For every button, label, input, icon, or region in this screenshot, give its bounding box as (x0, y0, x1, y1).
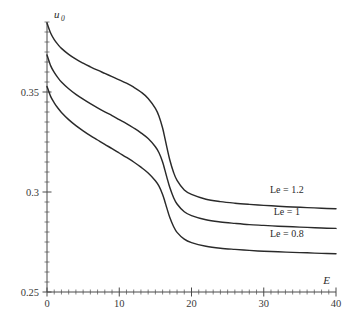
y-axis-label-subscript: 0 (61, 14, 65, 23)
series-label: Le = 1 (274, 206, 300, 217)
x-axis-label: E (322, 274, 330, 286)
x-axis-tick-labels: 010203040 (44, 298, 341, 309)
y-axis-label: u (54, 8, 60, 20)
curve-le-1 (47, 55, 336, 228)
x-tick-label: 40 (331, 298, 342, 309)
series-label: Le = 0.8 (270, 228, 304, 239)
data-curves (47, 23, 336, 254)
plot-area: 0.250.30.35 010203040 Le = 1.2Le = 1Le =… (0, 0, 346, 330)
series-label: Le = 1.2 (270, 184, 304, 195)
x-tick-label: 0 (44, 298, 49, 309)
y-axis-tick-labels: 0.250.30.35 (21, 87, 39, 298)
x-tick-label: 20 (186, 298, 197, 309)
x-tick-label: 30 (259, 298, 270, 309)
series-labels: Le = 1.2Le = 1Le = 0.8 (270, 184, 304, 239)
chart-figure: 0.250.30.35 010203040 Le = 1.2Le = 1Le =… (0, 0, 346, 330)
x-tick-label: 10 (114, 298, 125, 309)
y-tick-label: 0.25 (21, 287, 39, 298)
y-tick-label: 0.35 (21, 87, 39, 98)
curve-le-1.2 (47, 23, 336, 209)
y-tick-label: 0.3 (26, 187, 39, 198)
